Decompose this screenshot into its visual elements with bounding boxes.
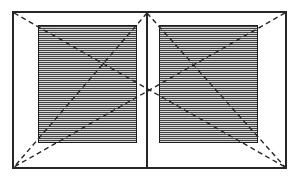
left-sash-glazing-panel <box>38 25 137 143</box>
center-mullion <box>146 11 148 169</box>
right-sash-glazing-panel <box>159 25 258 143</box>
window-elevation-diagram <box>0 0 299 181</box>
